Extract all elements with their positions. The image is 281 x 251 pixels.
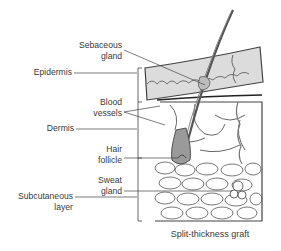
label-line: vessels	[62, 108, 122, 119]
label-dermis: Dermis	[10, 123, 74, 134]
label-line: Sebaceous	[62, 40, 122, 51]
label-line: Subcutaneous	[0, 191, 73, 202]
label-line: Blood	[62, 97, 122, 108]
label-sebaceous-gland: Sebaceous gland	[62, 40, 122, 62]
diagram-caption: Split-thickness graft	[150, 229, 270, 240]
layer-bracket	[138, 68, 142, 221]
label-epidermis: Epidermis	[10, 67, 72, 78]
hair-follicle	[172, 128, 191, 164]
graft-flap	[145, 47, 263, 100]
label-line: Hair	[62, 144, 122, 155]
label-subcutaneous-layer: Subcutaneous layer	[0, 191, 73, 213]
label-line: gland	[62, 51, 122, 62]
label-hair-follicle: Hair follicle	[62, 144, 122, 166]
label-blood-vessels: Blood vessels	[62, 97, 122, 119]
label-line: follicle	[62, 155, 122, 166]
label-line: Sweat	[62, 175, 122, 186]
label-line: layer	[0, 202, 73, 213]
